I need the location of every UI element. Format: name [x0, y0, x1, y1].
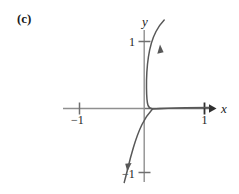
x-axis-label: x: [220, 101, 227, 116]
phase-plot: −1 1 1 −1 x y: [0, 0, 239, 194]
curve-upper-branch: [146, 20, 209, 109]
x-axis-arrowhead: [209, 104, 217, 113]
y-axis-label: y: [140, 14, 148, 29]
tick-label-x-positive-one: 1: [202, 113, 208, 127]
tick-label-y-positive-one: 1: [129, 35, 135, 49]
upper-branch-direction-arrowhead: [157, 45, 163, 54]
figure-panel-c: (c) −1 1 1 −1 x y: [0, 0, 239, 194]
tick-label-x-negative-one: −1: [71, 113, 84, 127]
